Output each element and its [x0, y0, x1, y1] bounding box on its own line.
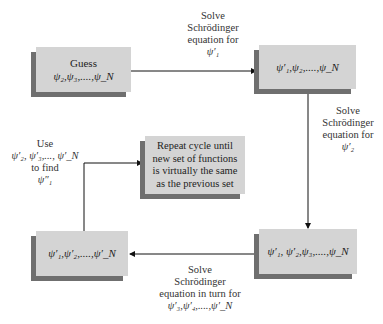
- label-bottom-line-2: Schrödinger: [145, 276, 255, 288]
- label-bottom-line-1: Solve: [145, 264, 255, 276]
- label-top-line-4: ψ′₁: [168, 46, 258, 58]
- label-top-line-2: Schrödinger: [168, 22, 258, 34]
- repeat-line-1: Repeat cycle until: [157, 140, 233, 153]
- label-left-line-3: to find: [10, 162, 80, 174]
- label-right: Solve Schrödinger equation for ψ′₂: [312, 105, 383, 153]
- label-top: Solve Schrödinger equation for ψ′₁: [168, 10, 258, 58]
- repeat-line-3: is virtually the same: [153, 165, 238, 178]
- bottom-left-box: ψ′₁,ψ′₂,....,ψ′_N: [36, 231, 128, 276]
- repeat-line-4: as the previous set: [156, 178, 233, 191]
- bottom-right-formula: ψ′₁, ψ′₂,ψ₃,....,ψ_N: [267, 245, 348, 258]
- bottom-left-formula: ψ′₁,ψ′₂,....,ψ′_N: [48, 247, 115, 260]
- label-left-line-1: Use: [10, 138, 80, 150]
- label-bottom: Solve Schrödinger equation in turn for ψ…: [145, 264, 255, 312]
- guess-box: Guess ψ₂,ψ₃,....,ψ_N: [36, 47, 131, 92]
- label-right-line-1: Solve: [312, 105, 383, 117]
- label-bottom-line-3: equation in turn for: [145, 288, 255, 300]
- guess-title: Guess: [70, 57, 97, 70]
- label-left: Use ψ′₂, ψ′₃,..., ψ′_N to find ψ″₁: [10, 138, 80, 186]
- label-top-line-3: equation for: [168, 34, 258, 46]
- label-top-line-1: Solve: [168, 10, 258, 22]
- guess-formula: ψ₂,ψ₃,....,ψ_N: [53, 70, 113, 83]
- bottom-right-box: ψ′₁, ψ′₂,ψ₃,....,ψ_N: [259, 229, 357, 274]
- label-left-line-2: ψ′₂, ψ′₃,..., ψ′_N: [10, 150, 80, 162]
- repeat-box: Repeat cycle until new set of functions …: [145, 136, 245, 194]
- label-left-line-4: ψ″₁: [10, 174, 80, 186]
- label-right-line-4: ψ′₂: [312, 141, 383, 153]
- label-bottom-line-4: ψ′₃,ψ′₄,....,ψ′_N: [145, 300, 255, 312]
- label-right-line-3: equation for: [312, 129, 383, 141]
- top-right-box: ψ′₁,ψ₂,....,ψ_N: [259, 45, 356, 89]
- label-right-line-2: Schrödinger: [312, 117, 383, 129]
- repeat-line-2: new set of functions: [153, 153, 238, 166]
- top-right-formula: ψ′₁,ψ₂,....,ψ_N: [276, 61, 339, 74]
